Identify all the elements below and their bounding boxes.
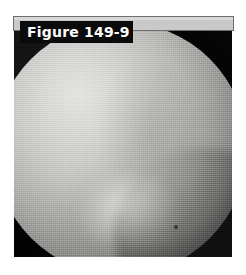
figure-number-label: Figure 149-9: [20, 21, 133, 43]
figure-number-text: Figure 149-9: [27, 25, 130, 39]
image-film-grain: [14, 31, 232, 257]
figure-image: [14, 31, 232, 257]
figure-plate: Figure 149-9: [0, 0, 246, 275]
